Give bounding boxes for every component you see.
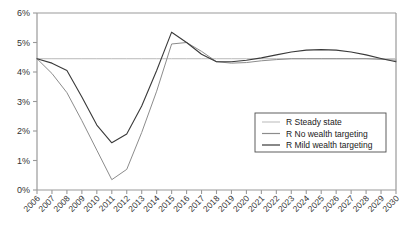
y-tick-label: 2%: [17, 126, 30, 136]
y-tick-label: 0%: [17, 185, 30, 195]
y-tick-label: 6%: [17, 8, 30, 18]
y-axis-ticks: 0%1%2%3%4%5%6%: [17, 8, 37, 195]
line-chart: 0%1%2%3%4%5%6% 2006200720082009201020112…: [0, 0, 411, 241]
y-tick-label: 1%: [17, 156, 30, 166]
legend-label-2: R Mild wealth targeting: [286, 140, 373, 150]
y-tick-label: 5%: [17, 38, 30, 48]
legend-label-0: R Steady state: [286, 117, 342, 127]
x-tick-label: 2030: [380, 193, 401, 214]
plot-background: [37, 13, 396, 190]
x-axis-ticks: 2006200720082009201020112012201320142015…: [21, 190, 401, 214]
chart-legend: R Steady stateR No wealth targetingR Mil…: [255, 113, 386, 152]
legend-label-1: R No wealth targeting: [286, 129, 368, 139]
y-tick-label: 4%: [17, 67, 30, 77]
y-tick-label: 3%: [17, 97, 30, 107]
chart-container: 0%1%2%3%4%5%6% 2006200720082009201020112…: [0, 0, 411, 241]
